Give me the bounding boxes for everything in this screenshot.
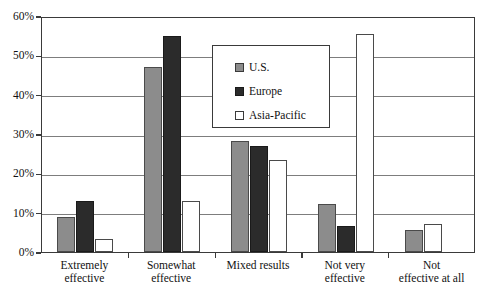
x-axis-tick-mark xyxy=(128,253,129,258)
x-axis-category-label: Somewhateffective xyxy=(128,259,215,285)
legend-label-us: U.S. xyxy=(249,61,269,73)
x-axis-category-label-line: Mixed results xyxy=(215,259,302,272)
x-axis-category-label-line: effective xyxy=(41,272,128,285)
x-axis-category-label: Extremelyeffective xyxy=(41,259,128,285)
x-axis-category-label-line: Extremely xyxy=(41,259,128,272)
chart-legend: U.S. Europe Asia-Pacific xyxy=(212,45,330,128)
x-axis-category-label-line: Somewhat xyxy=(128,259,215,272)
legend-item-us: U.S. xyxy=(235,55,329,79)
x-axis-category-label-line: Not xyxy=(388,259,475,272)
x-axis-tick-mark xyxy=(301,253,302,258)
x-axis-category-label: Not veryeffective xyxy=(301,259,388,285)
x-axis-category-label-line: effective xyxy=(128,272,215,285)
legend-item-europe: Europe xyxy=(235,79,329,103)
legend-label-asia-pacific: Asia-Pacific xyxy=(249,109,306,121)
legend-swatch-europe xyxy=(235,87,244,96)
x-axis-category-label: Noteffective at all xyxy=(388,259,475,285)
x-axis-category-label-line: effective xyxy=(301,272,388,285)
x-axis-category-label: Mixed results xyxy=(215,259,302,272)
x-axis-category-label-line: Not very xyxy=(301,259,388,272)
legend-label-europe: Europe xyxy=(249,85,282,97)
x-axis-tick-mark xyxy=(215,253,216,258)
x-axis-category-label-line: effective at all xyxy=(388,272,475,285)
legend-swatch-asia-pacific xyxy=(235,111,244,120)
bar-chart: 0%10%20%30%40%50%60% ExtremelyeffectiveS… xyxy=(0,0,482,297)
legend-swatch-us xyxy=(235,63,244,72)
x-axis-tick-mark xyxy=(388,253,389,258)
legend-item-asia-pacific: Asia-Pacific xyxy=(235,103,329,127)
